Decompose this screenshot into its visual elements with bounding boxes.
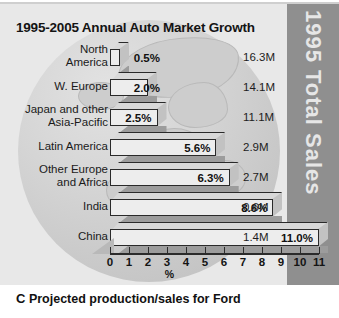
- x-axis-tick: [186, 247, 187, 254]
- figure-caption-body: Projected production/sales for Ford: [29, 292, 241, 306]
- x-axis-tick: [243, 247, 244, 254]
- x-axis-tick: [110, 247, 111, 254]
- figure-caption-text: C Projected production/sales for Ford: [16, 291, 241, 306]
- x-axis-line: [110, 253, 319, 255]
- x-axis-tick: [319, 247, 320, 254]
- x-axis-tick: [148, 247, 149, 254]
- x-axis-tick: [129, 247, 130, 254]
- x-axis-tick: [224, 247, 225, 254]
- x-axis-tick: [167, 247, 168, 254]
- x-axis-tick: [281, 247, 282, 254]
- figure-caption-letter: C: [16, 291, 25, 306]
- x-axis-title: %: [0, 268, 339, 280]
- figure-caption: C Projected production/sales for Ford: [0, 285, 339, 318]
- x-axis-tick: [205, 247, 206, 254]
- x-axis-tick: [262, 247, 263, 254]
- figure-container: 1995 Total Sales 1995-2005 Annual Auto M…: [0, 0, 339, 318]
- x-axis-tick: [300, 247, 301, 254]
- x-axis-tick-label: 11: [307, 256, 331, 268]
- x-axis: 01234567891011%: [0, 0, 339, 283]
